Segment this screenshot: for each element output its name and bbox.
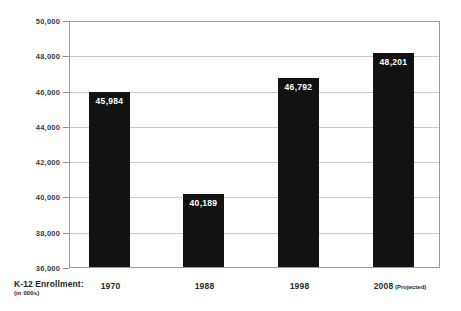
x-tick-note: (Projected) — [393, 284, 426, 290]
y-tick-label: 48,000 — [0, 52, 60, 61]
axis-title-main: K-12 Enrollment: — [14, 279, 134, 289]
x-tick-label-2008: 2008 (Projected) — [345, 281, 455, 291]
bar-value-label: 46,792 — [278, 82, 319, 92]
y-tick-label: 44,000 — [0, 122, 60, 131]
y-tick-label: 38,000 — [0, 228, 60, 237]
bar-2008: 48,201 — [373, 53, 414, 267]
x-tick-label-1998: 1998 — [257, 281, 342, 291]
plot-area: 45,984 40,189 46,792 48,201 — [69, 21, 440, 268]
y-tick-label: 50,000 — [0, 17, 60, 26]
x-tick-text: 1988 — [195, 281, 215, 291]
x-tick-label-1988: 1988 — [162, 281, 247, 291]
bar-1988: 40,189 — [183, 194, 224, 267]
x-tick-text: 2008 — [374, 281, 394, 291]
y-tick-label: 40,000 — [0, 193, 60, 202]
x-tick-text: 1998 — [290, 281, 310, 291]
bar-value-label: 48,201 — [373, 57, 414, 67]
axis-title-note: (in 000s) — [14, 289, 134, 297]
y-tick-label: 36,000 — [0, 264, 60, 273]
y-tick-label: 42,000 — [0, 158, 60, 167]
bar-value-label: 45,984 — [89, 96, 130, 106]
bar-1970: 45,984 — [89, 92, 130, 267]
bar-chart: 50,000 48,000 46,000 44,000 42,000 40,00… — [0, 0, 461, 311]
y-tick-label: 46,000 — [0, 87, 60, 96]
bar-value-label: 40,189 — [183, 198, 224, 208]
y-tick-mark — [63, 268, 69, 269]
bar-1998: 46,792 — [278, 78, 319, 267]
axis-title: K-12 Enrollment: (in 000s) — [14, 279, 134, 297]
